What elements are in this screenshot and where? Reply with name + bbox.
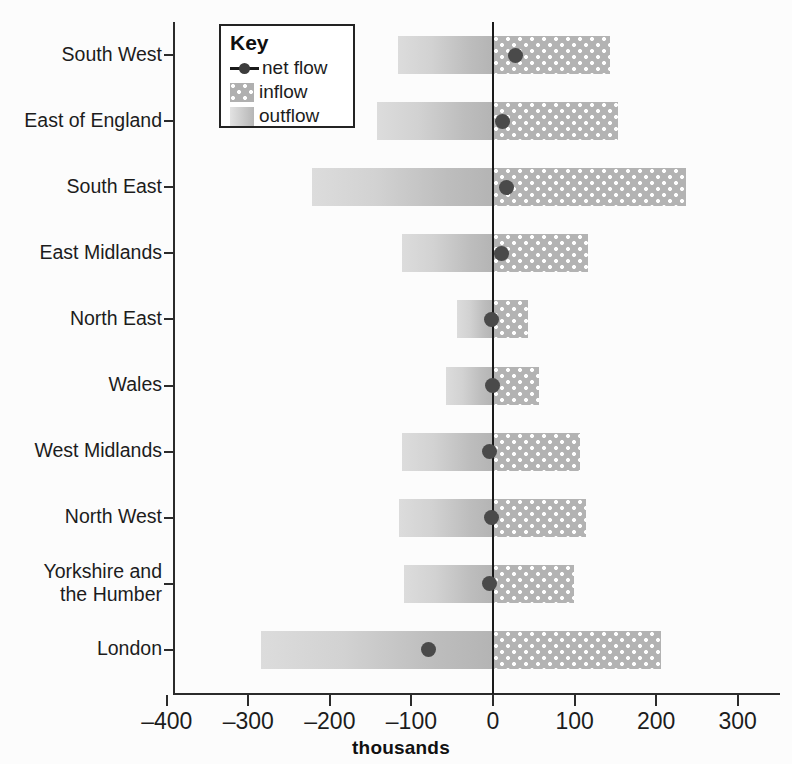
x-axis-title: thousands [0,737,792,759]
bar-inflow [493,168,686,206]
y-axis-label-west-midlands: West Midlands [34,439,162,462]
bar-outflow [398,36,493,74]
x-axis-tick [492,695,494,706]
net-flow-dot [485,378,500,393]
y-axis-tick [164,318,173,320]
y-axis-label-north-east: North East [70,307,162,330]
x-axis-tick-label: –300 [208,708,288,735]
y-axis-tick [164,252,173,254]
bar-inflow [493,367,539,405]
y-axis-tick [164,385,173,387]
y-axis-tick [164,120,173,122]
x-axis-title-label: thousands [352,737,450,759]
net-flow-marker-icon [230,59,259,77]
net-flow-dot [484,510,499,525]
legend-label-outflow: outflow [259,105,319,127]
bar-outflow [261,631,493,669]
bar-inflow [493,631,661,669]
y-axis-label-london: London [97,637,162,660]
bar-inflow [493,433,580,471]
legend-label-net-flow: net flow [262,57,327,79]
y-axis-label-east-midlands: East Midlands [40,241,162,264]
net-flow-dot [495,114,510,129]
y-axis-tick [164,583,173,585]
bar-inflow [493,565,574,603]
y-axis-tick [164,649,173,651]
zero-reference-line [492,22,494,694]
net-flow-dot [499,180,514,195]
x-axis-tick [410,695,412,706]
x-axis-tick-label: 0 [453,708,533,735]
y-axis-label-east-of-england: East of England [24,109,162,132]
x-axis-tick [166,695,168,706]
bar-outflow [312,168,493,206]
chart-page: South WestEast of EnglandSouth EastEast … [0,0,792,764]
y-axis-tick [164,451,173,453]
outflow-swatch-icon [230,107,254,126]
y-axis-label-wales: Wales [109,373,162,396]
x-axis-tick [574,695,576,706]
net-flow-dot [494,246,509,261]
x-axis-tick [655,695,657,706]
x-axis-tick-label: –200 [290,708,370,735]
y-axis-label-south-west: South West [62,43,162,66]
x-axis-tick [329,695,331,706]
bar-outflow [402,433,493,471]
x-axis-tick-label: 200 [616,708,696,735]
bar-outflow [402,234,493,272]
net-flow-dot [508,48,523,63]
bar-outflow [404,565,493,603]
legend-label-inflow: inflow [259,81,308,103]
y-axis-label-yorkshire-and-the-humber: Yorkshire and the Humber [43,560,162,606]
y-axis-tick [164,517,173,519]
legend-item-inflow: inflow [230,80,353,104]
y-axis-line [173,22,175,694]
y-axis-label-south-east: South East [67,175,162,198]
plot-area: South WestEast of EnglandSouth EastEast … [0,0,792,764]
legend-item-net-flow: net flow [230,56,353,80]
legend-item-outflow: outflow [230,104,353,128]
x-axis-tick-label: –400 [127,708,207,735]
bar-inflow [493,102,618,140]
bar-outflow [377,102,493,140]
bar-outflow [399,499,493,537]
x-axis-tick-label: 300 [698,708,778,735]
inflow-swatch-icon [230,83,254,102]
x-axis-tick-label: 100 [535,708,615,735]
y-axis-label-north-west: North West [65,505,162,528]
x-axis-tick-label: –100 [371,708,451,735]
legend-key-box: Key net flow inflow outflow [219,24,355,128]
bar-inflow [493,499,586,537]
y-axis-tick [164,54,173,56]
x-axis-tick [737,695,739,706]
y-axis-tick [164,186,173,188]
x-axis-line [173,693,780,695]
x-axis-tick [247,695,249,706]
legend-title: Key [230,31,353,55]
net-flow-dot [484,312,499,327]
